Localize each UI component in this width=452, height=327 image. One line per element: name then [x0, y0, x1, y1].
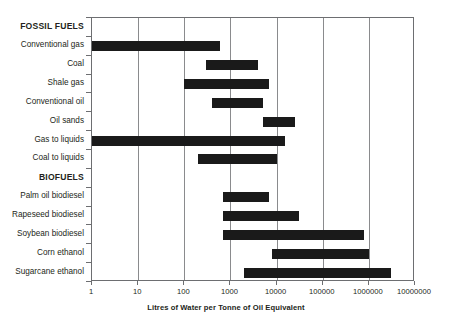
x-axis-tick: [137, 281, 138, 285]
y-axis-tick: [86, 206, 91, 207]
y-axis-tick: [86, 74, 91, 75]
gridline: [277, 18, 278, 280]
x-axis-tick-label: 100: [177, 287, 190, 296]
x-axis-tick: [414, 281, 415, 285]
y-axis-category-label: Palm oil biodiesel: [20, 191, 84, 201]
bar-range: [92, 136, 285, 146]
x-axis-tick-label: 1: [89, 287, 93, 296]
bar-range: [223, 211, 298, 221]
y-axis-category-label: Coal to liquids: [33, 153, 84, 163]
bar-range: [223, 192, 269, 202]
y-axis-tick: [86, 17, 91, 18]
bar-range: [244, 268, 391, 278]
y-axis-tick: [86, 262, 91, 263]
y-axis-tick: [86, 92, 91, 93]
gridline: [230, 18, 231, 280]
bar-range: [263, 117, 295, 127]
y-axis-labels: FOSSIL FUELSConventional gasCoalShale ga…: [0, 17, 88, 281]
bar-range: [92, 41, 220, 51]
x-axis-tick-label: 10: [133, 287, 141, 296]
y-axis-category-label: Coal: [67, 59, 84, 69]
y-axis-tick: [86, 187, 91, 188]
bar-range: [206, 60, 258, 70]
y-axis-category-label: Conventional gas: [21, 40, 84, 50]
y-axis-category-label: Sugarcane ethanol: [15, 267, 84, 277]
water-footprint-range-chart: FOSSIL FUELSConventional gasCoalShale ga…: [0, 0, 452, 327]
y-axis-category-label: Oil sands: [50, 116, 84, 126]
x-axis-tick: [276, 281, 277, 285]
y-axis-category-label: Soybean biodiesel: [17, 229, 84, 239]
y-axis-group-label: BIOFUELS: [39, 172, 84, 182]
x-axis-tick: [322, 281, 323, 285]
y-axis-category-label: Conventional oil: [26, 97, 84, 107]
x-axis-tick-label: 1000000: [353, 287, 383, 296]
y-axis-tick: [86, 149, 91, 150]
y-axis-group-label: FOSSIL FUELS: [20, 21, 84, 31]
y-axis-category-label: Rapeseed biodiesel: [12, 210, 84, 220]
y-axis-category-label: Shale gas: [48, 78, 84, 88]
x-axis-tick-label: 100000: [309, 287, 334, 296]
x-axis-tick: [368, 281, 369, 285]
y-axis-tick: [86, 55, 91, 56]
x-axis-title: Litres of Water per Tonne of Oil Equival…: [0, 303, 452, 312]
x-axis-tick: [91, 281, 92, 285]
plot-area: [91, 17, 414, 281]
y-axis-tick: [86, 224, 91, 225]
gridline: [138, 18, 139, 280]
gridline: [323, 18, 324, 280]
y-axis-tick: [86, 130, 91, 131]
x-axis-tick: [229, 281, 230, 285]
y-axis-tick: [86, 111, 91, 112]
y-axis-category-label: Gas to liquids: [34, 135, 84, 145]
bar-range: [223, 230, 364, 240]
y-axis-category-label: Corn ethanol: [37, 248, 84, 258]
y-axis-tick: [86, 243, 91, 244]
x-axis-tick-label: 10000000: [397, 287, 431, 296]
gridline: [184, 18, 185, 280]
bar-range: [184, 79, 269, 89]
x-axis-tick-label: 10000: [265, 287, 286, 296]
bar-range: [198, 154, 276, 164]
x-axis-tick: [183, 281, 184, 285]
y-axis-tick: [86, 168, 91, 169]
bar-range: [272, 249, 369, 259]
y-axis-tick: [86, 36, 91, 37]
gridline: [369, 18, 370, 280]
x-axis-tick-label: 1000: [221, 287, 238, 296]
bar-range: [212, 98, 263, 108]
